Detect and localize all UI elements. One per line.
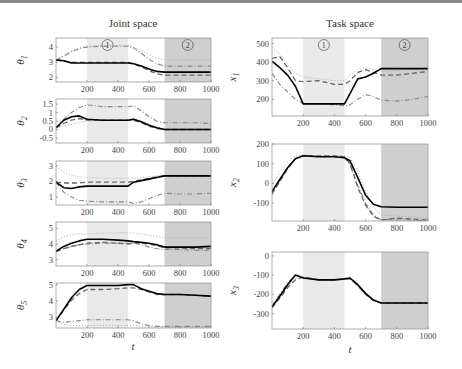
y-tick-label: 2	[49, 176, 53, 186]
y-tick-label: 500	[256, 39, 269, 49]
x-tick-label: 1000	[203, 145, 220, 155]
x-tick-label: 400	[328, 223, 341, 233]
panel-x3: 20040060080010000-100-200-300x3	[226, 251, 437, 341]
x-tick-label: 800	[390, 118, 403, 128]
x-tick-label: 600	[143, 145, 156, 155]
y-tick-label: 200	[256, 139, 269, 149]
region-r2	[381, 252, 428, 329]
region-r2-label: 2	[186, 41, 190, 50]
x-tick-label: 600	[359, 118, 372, 128]
x-tick-label: 800	[174, 207, 187, 217]
x-tick-label: 400	[328, 331, 341, 341]
region-r2	[165, 161, 212, 205]
y-tick-label: -200	[253, 289, 269, 299]
y-tick-label: 0	[265, 251, 269, 261]
x-tick-label: 200	[297, 223, 310, 233]
region-r2	[381, 144, 428, 221]
region-r2-label: 2	[403, 41, 407, 50]
x-axis-label-right: t	[348, 343, 352, 355]
y-axis-label: θ2	[14, 116, 29, 125]
y-axis-label: x1	[226, 73, 241, 83]
x-tick-label: 200	[81, 330, 94, 340]
x-tick-label: 600	[359, 223, 372, 233]
y-axis-label: θ5	[14, 301, 29, 310]
x-tick-label: 400	[112, 268, 125, 278]
y-tick-label: 3	[49, 57, 53, 67]
region-r1-label: 1	[106, 41, 110, 50]
panel-x1: 2004006008001000200300400500x112	[226, 38, 437, 128]
y-tick-label: 100	[256, 159, 269, 169]
y-tick-label: 5	[49, 223, 53, 233]
region-r2	[165, 222, 212, 266]
region-r1	[303, 252, 344, 329]
x-tick-label: 200	[297, 331, 310, 341]
y-tick-label: 5	[49, 280, 53, 290]
y-axis-label: θ1	[14, 55, 29, 64]
region-r2	[165, 283, 212, 328]
x-tick-label: 800	[390, 331, 403, 341]
x-tick-label: 200	[81, 145, 94, 155]
region-r1	[87, 161, 128, 205]
y-tick-label: 3	[49, 161, 53, 171]
x-tick-label: 1000	[420, 331, 437, 341]
figure: Joint space Task space t t 2004006008001…	[0, 0, 462, 369]
x-tick-label: 1000	[203, 84, 220, 94]
x-tick-label: 400	[328, 118, 341, 128]
y-tick-label: 3	[49, 312, 53, 322]
x-axis-label-left: t	[131, 340, 135, 352]
region-r2	[165, 99, 212, 143]
x-tick-label: 600	[143, 207, 156, 217]
y-tick-label: 4	[49, 42, 54, 52]
x-tick-label: 800	[174, 145, 187, 155]
y-tick-label: 4	[49, 296, 54, 306]
y-axis-label: x2	[226, 178, 241, 188]
panel-theta1: 2004006008001000234θ112	[14, 38, 220, 94]
x-tick-label: 600	[143, 84, 156, 94]
y-axis-label: θ3	[14, 178, 29, 187]
x-tick-label: 800	[390, 223, 403, 233]
x-tick-label: 200	[81, 84, 94, 94]
panel-theta3: 2004006008001000123θ3	[14, 161, 220, 217]
x-tick-label: 400	[112, 84, 125, 94]
panel-theta4: 2004006008001000345θ4	[14, 222, 220, 278]
x-tick-label: 1000	[203, 330, 220, 340]
y-tick-label: 3	[49, 255, 53, 265]
x-tick-label: 400	[112, 207, 125, 217]
panel-theta2: 2004006008001000-0.500.511.5θ2	[14, 99, 220, 155]
y-tick-label: 1.5	[42, 99, 53, 109]
x-tick-label: 200	[81, 268, 94, 278]
x-tick-label: 600	[143, 268, 156, 278]
y-tick-label: 0	[265, 178, 269, 188]
y-tick-label: 1	[49, 192, 53, 202]
y-tick-label: -100	[253, 270, 269, 280]
x-tick-label: 1000	[203, 207, 220, 217]
region-r1-label: 1	[322, 41, 326, 50]
x-tick-label: 1000	[203, 268, 220, 278]
x-tick-label: 600	[143, 330, 156, 340]
x-tick-label: 800	[174, 330, 187, 340]
y-tick-label: 200	[256, 94, 269, 104]
panel-theta5: 2004006008001000345θ5	[14, 280, 220, 340]
y-tick-label: 400	[256, 57, 269, 67]
joint-space-title: Joint space	[109, 17, 158, 29]
x-tick-label: 800	[174, 84, 187, 94]
y-tick-label: -100	[253, 198, 269, 208]
x-tick-label: 200	[81, 207, 94, 217]
y-axis-label: θ4	[14, 239, 29, 248]
y-tick-label: -300	[253, 309, 269, 319]
y-tick-label: 2	[49, 72, 53, 82]
x-tick-label: 400	[112, 145, 125, 155]
y-tick-label: 300	[256, 76, 269, 86]
y-axis-label: x3	[226, 286, 241, 296]
panel-x2: 2004006008001000-1000100200x2	[226, 139, 437, 233]
x-tick-label: 800	[174, 268, 187, 278]
x-tick-label: 200	[297, 118, 310, 128]
task-space-title: Task space	[326, 17, 374, 29]
x-tick-label: 400	[112, 330, 125, 340]
y-tick-label: 4	[49, 239, 54, 249]
x-tick-label: 1000	[420, 223, 437, 233]
x-tick-label: 1000	[420, 118, 437, 128]
x-tick-label: 600	[359, 331, 372, 341]
